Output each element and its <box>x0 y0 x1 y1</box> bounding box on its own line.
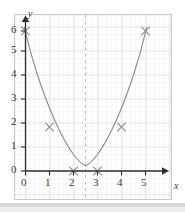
y-tick-label-6: 6 <box>11 24 17 35</box>
x-tick-label-1: 1 <box>45 177 51 188</box>
x-axis-ticks <box>26 171 146 176</box>
y-tick-label-0: 0 <box>11 164 17 175</box>
y-tick-label-3: 3 <box>11 92 17 103</box>
graph-figure: 0 1 2 3 4 5 0 1 2 3 4 5 6 x y <box>0 0 185 212</box>
y-tick-label-4: 4 <box>11 68 17 79</box>
x-tick-label-2: 2 <box>69 177 75 188</box>
x-tick-label-5: 5 <box>141 177 147 188</box>
axes-layer <box>15 15 172 200</box>
x-tick-label-3: 3 <box>93 177 99 188</box>
y-tick-label-2: 2 <box>11 116 17 127</box>
y-axis-label: y <box>28 9 32 19</box>
y-tick-label-1: 1 <box>11 140 17 151</box>
x-axis-arrowhead <box>162 167 169 175</box>
x-tick-label-0: 0 <box>21 177 27 188</box>
y-axis-ticks <box>21 31 26 171</box>
y-tick-label-5: 5 <box>11 44 17 55</box>
x-tick-label-4: 4 <box>117 177 123 188</box>
plot-area <box>14 14 172 200</box>
x-axis-label: x <box>174 181 178 191</box>
bottom-band-light <box>0 207 185 212</box>
